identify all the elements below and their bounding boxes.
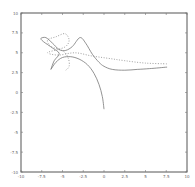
x-tick-label: 5 [144,174,147,179]
y-tick-label: 5 [15,50,18,55]
y-tick-label: -5 [14,130,18,135]
x-tick-label: 10 [184,174,190,179]
y-tick-label: 7.5 [12,30,19,35]
x-tick-label: 7.5 [163,174,170,179]
line-chart: 107.552.50-2.5-5-7.5-10 -10-7.5-5-2.502.… [0,0,195,187]
y-tick-label: -2.5 [10,110,18,115]
x-tick-label: -10 [18,174,25,179]
y-tick-label: -7.5 [10,150,18,155]
x-tick-label: 0 [103,174,106,179]
plot-frame [21,13,187,172]
y-tick-label: 2.5 [12,70,19,75]
x-tick-label: -5 [61,174,65,179]
y-tick-label: 10 [13,11,19,16]
x-tick-label: -2.5 [79,174,87,179]
x-tick-label: 2.5 [122,174,129,179]
y-tick-label: 0 [15,90,18,95]
x-tick-label: -7.5 [38,174,46,179]
